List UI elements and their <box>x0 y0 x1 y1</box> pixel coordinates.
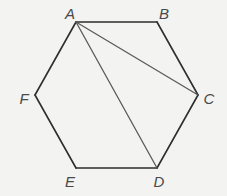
vertex-label-a: A <box>65 6 75 21</box>
vertex-label-c: C <box>204 91 215 106</box>
hexagon-diagram: A B C D E F <box>0 0 227 196</box>
edge-fa <box>35 22 76 95</box>
edge-bc <box>157 22 198 95</box>
diagonal-ad <box>76 22 157 168</box>
diagonal-ac <box>76 22 198 95</box>
edge-cd <box>157 95 198 168</box>
vertex-label-b: B <box>159 6 169 21</box>
vertex-label-f: F <box>19 91 28 106</box>
vertex-label-e: E <box>65 174 75 189</box>
hexagon-figure <box>0 0 227 196</box>
vertex-label-d: D <box>154 174 165 189</box>
edge-ef <box>35 95 76 168</box>
hexagon-diagonals <box>76 22 198 168</box>
